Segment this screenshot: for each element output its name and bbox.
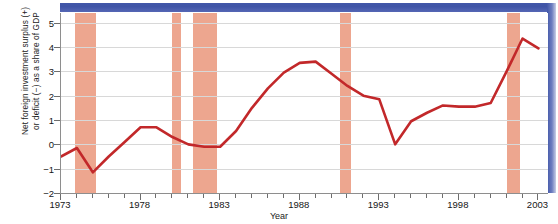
x-axis-minor-tick bbox=[362, 194, 363, 198]
x-axis-minor-tick bbox=[124, 194, 125, 198]
y-axis-tick-label: −1 bbox=[14, 163, 54, 174]
x-axis-minor-tick bbox=[171, 194, 172, 198]
x-axis-tick-label: 1988 bbox=[288, 199, 309, 210]
y-axis-tick bbox=[54, 120, 60, 121]
x-axis-minor-tick bbox=[187, 194, 188, 198]
x-axis-tick-label: 1993 bbox=[368, 199, 389, 210]
x-axis-minor-tick bbox=[76, 194, 77, 198]
x-axis-minor-tick bbox=[108, 194, 109, 198]
x-axis-minor-tick bbox=[394, 194, 395, 198]
x-axis-minor-tick bbox=[474, 194, 475, 198]
right-banner-decoration bbox=[547, 3, 556, 193]
top-banner-decoration bbox=[60, 3, 556, 12]
y-axis-tick-label: 4 bbox=[14, 42, 54, 53]
x-axis-minor-tick bbox=[235, 194, 236, 198]
x-axis-tick-label: 1983 bbox=[209, 199, 230, 210]
x-axis-minor-tick bbox=[522, 194, 523, 198]
x-axis-minor-tick bbox=[490, 194, 491, 198]
y-axis-tick-label: 2 bbox=[14, 90, 54, 101]
x-axis-minor-tick bbox=[155, 194, 156, 198]
x-axis-minor-tick bbox=[346, 194, 347, 198]
y-axis-tick bbox=[54, 23, 60, 24]
y-axis-tick-label: 5 bbox=[14, 17, 54, 28]
x-axis-minor-tick bbox=[506, 194, 507, 198]
y-axis-tick bbox=[54, 96, 60, 97]
x-axis-minor-tick bbox=[251, 194, 252, 198]
x-axis-minor-tick bbox=[315, 194, 316, 198]
y-axis-tick bbox=[54, 144, 60, 145]
y-axis-tick bbox=[54, 71, 60, 72]
x-axis-tick-label: 1978 bbox=[129, 199, 150, 210]
x-axis-minor-tick bbox=[267, 194, 268, 198]
x-axis-tick-label: 1973 bbox=[49, 199, 70, 210]
x-axis-minor-tick bbox=[283, 194, 284, 198]
x-axis-minor-tick bbox=[203, 194, 204, 198]
x-axis-minor-tick bbox=[92, 194, 93, 198]
x-axis-minor-tick bbox=[426, 194, 427, 198]
series-line bbox=[61, 39, 538, 173]
chart-figure: Net foreign investment surplus (+) or de… bbox=[0, 0, 558, 224]
plot-area bbox=[60, 13, 548, 194]
x-axis-title: Year bbox=[0, 211, 558, 221]
plot-inner bbox=[61, 13, 548, 193]
x-axis-minor-tick bbox=[410, 194, 411, 198]
y-axis-tick-label: 1 bbox=[14, 115, 54, 126]
y-axis-tick-label: 3 bbox=[14, 66, 54, 77]
y-axis-tick bbox=[54, 47, 60, 48]
y-axis-tick bbox=[54, 169, 60, 170]
x-axis-tick-label: 1998 bbox=[447, 199, 468, 210]
x-axis-minor-tick bbox=[442, 194, 443, 198]
y-axis-tick-label: −2 bbox=[14, 188, 54, 199]
x-axis-minor-tick bbox=[331, 194, 332, 198]
y-axis-tick-label: 0 bbox=[14, 139, 54, 150]
series-line-group bbox=[61, 13, 548, 193]
x-axis-tick-label: 2003 bbox=[527, 199, 548, 210]
